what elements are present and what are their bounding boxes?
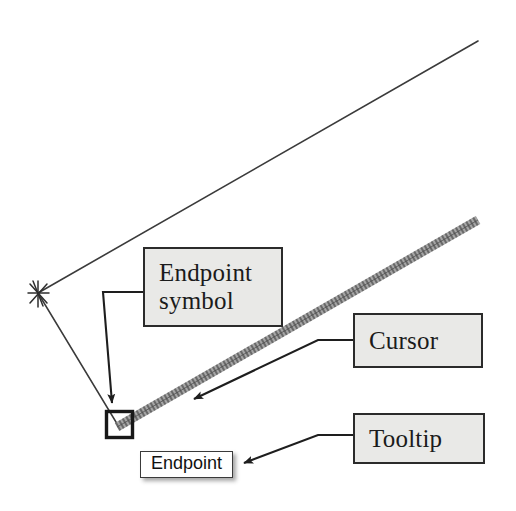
leader-tooltip: [244, 435, 354, 463]
callout-endpoint-symbol-label: Endpoint symbol: [145, 259, 252, 315]
lower-edge-line: [38, 293, 119, 427]
callout-tooltip-label: Tooltip: [355, 425, 442, 453]
leader-endpoint-symbol: [103, 292, 144, 403]
illustration-canvas: Endpoint symbol Cursor Tooltip Endpoint: [0, 0, 516, 511]
callout-cursor-label: Cursor: [355, 327, 438, 355]
callout-cursor: Cursor: [353, 313, 483, 368]
vertex-asterisk-marker: [28, 281, 49, 307]
endpoint-snap-tooltip-label: Endpoint: [151, 453, 222, 474]
endpoint-snap-tooltip: Endpoint: [140, 451, 233, 478]
callout-tooltip: Tooltip: [353, 413, 485, 464]
callout-endpoint-symbol: Endpoint symbol: [143, 247, 283, 327]
